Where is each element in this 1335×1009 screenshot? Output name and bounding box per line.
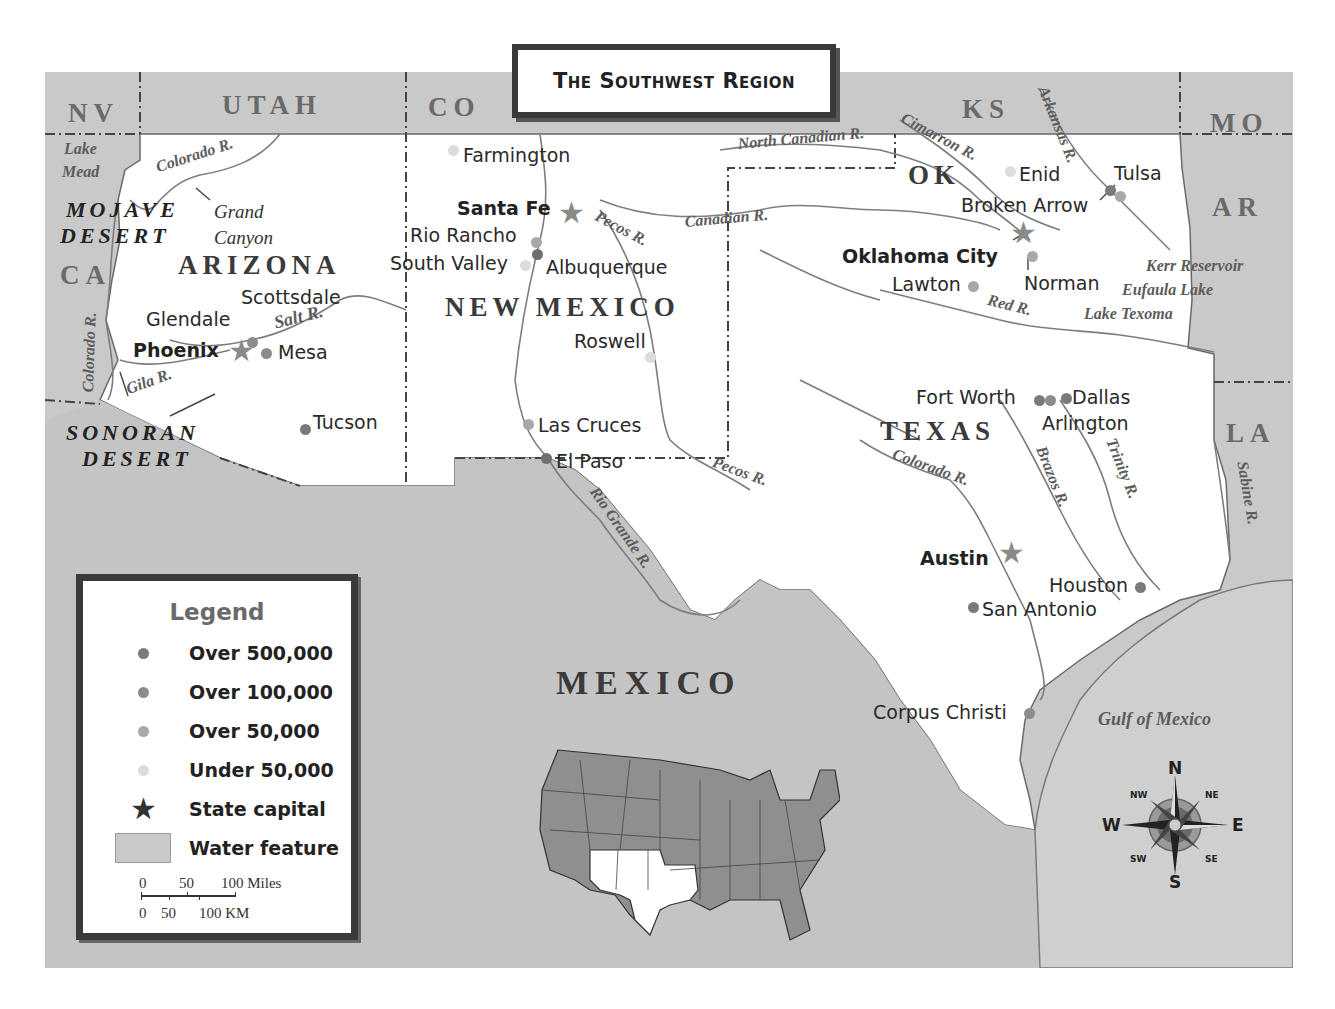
- water-label-north-canadian-river: North Canadian R.: [737, 125, 865, 152]
- capital-star-santa-fe: ★: [558, 198, 585, 228]
- water-label-rio-grande: Rio Grande R.: [587, 484, 655, 571]
- city-dot-south-valley: [520, 260, 531, 271]
- dot-icon: [138, 765, 149, 776]
- legend-item-over-100000: Over 100,000: [113, 677, 333, 707]
- water-label-colorado-river-texas: Colorado R.: [891, 446, 972, 488]
- city-label-scottsdale: Scottsdale: [241, 288, 341, 307]
- capital-star-austin: ★: [998, 538, 1025, 568]
- state-label-texas: TEXAS: [880, 418, 995, 445]
- city-dot-dallas: [1061, 393, 1072, 404]
- water-label-lake-mead-2: Mead: [62, 164, 99, 180]
- city-dot-mesa: [261, 348, 272, 359]
- city-dot-roswell: [645, 352, 656, 363]
- scale-tick: [235, 892, 236, 897]
- state-label-new-mexico: NEW MEXICO: [445, 294, 680, 321]
- city-dot-san-antonio: [968, 602, 979, 613]
- city-label-albuquerque: Albuquerque: [546, 258, 667, 277]
- city-dot-lawton: [968, 281, 979, 292]
- city-dot-norman: [1027, 251, 1038, 262]
- water-label-kerr-reservoir: Kerr Reservoir: [1146, 258, 1243, 274]
- city-dot-rio-rancho: [531, 237, 542, 248]
- legend-item-over-500000: Over 500,000: [113, 638, 333, 668]
- sonoran-desert-line2: DESERT: [82, 448, 192, 470]
- city-label-enid: Enid: [1019, 165, 1060, 184]
- star-icon: ★: [130, 794, 157, 824]
- legend-label: Water feature: [189, 837, 339, 859]
- state-label-nv: NV: [68, 100, 119, 127]
- city-label-santa-fe: Santa Fe: [457, 199, 551, 218]
- legend-label: State capital: [189, 798, 326, 820]
- city-dot-tucson: [300, 424, 311, 435]
- scale-km-100: 100 KM: [199, 905, 249, 922]
- water-swatch-icon: [115, 833, 171, 863]
- city-dot-enid: [1005, 166, 1016, 177]
- legend-label: Over 100,000: [189, 681, 333, 703]
- city-dot-corpus-christi: [1024, 708, 1035, 719]
- dot-icon: [138, 648, 149, 659]
- capital-star-oklahoma-city: ★: [1010, 218, 1037, 248]
- state-label-la: LA: [1226, 420, 1276, 447]
- mojave-desert-line2: DESERT: [60, 225, 170, 247]
- legend-label: Under 50,000: [189, 759, 334, 781]
- water-label-canadian-river: Canadian R.: [684, 207, 769, 230]
- state-label-co: CO: [428, 94, 481, 121]
- scale-tick: [199, 895, 200, 900]
- city-label-lawton: Lawton: [892, 275, 961, 294]
- water-label-gila-river: Gila R.: [124, 366, 174, 397]
- scale-tick: [187, 892, 188, 897]
- city-label-el-paso: El Paso: [556, 452, 623, 471]
- water-label-sabine-river: Sabine R.: [1234, 460, 1261, 526]
- legend-item-over-50000: Over 50,000: [113, 716, 320, 746]
- mojave-desert-line1: MOJAVE: [66, 199, 179, 221]
- city-dot-arlington: [1045, 395, 1056, 406]
- state-label-utah: UTAH: [222, 92, 322, 119]
- scale-tick: [169, 895, 170, 900]
- water-label-colorado-river-west: Colorado R.: [80, 312, 99, 393]
- city-dot-farmington: [448, 145, 459, 156]
- water-label-gulf-of-mexico: Gulf of Mexico: [1098, 710, 1211, 728]
- state-label-ks: KS: [962, 96, 1010, 123]
- city-label-tulsa: Tulsa: [1114, 164, 1162, 183]
- city-label-rio-rancho: Rio Rancho: [410, 226, 517, 245]
- city-label-houston: Houston: [1049, 576, 1128, 595]
- scale-tick: [141, 892, 142, 900]
- map-title-box: The Southwest Region: [512, 44, 836, 118]
- city-label-roswell: Roswell: [574, 332, 646, 351]
- city-label-mesa: Mesa: [278, 343, 328, 362]
- city-label-san-antonio: San Antonio: [982, 600, 1097, 619]
- city-dot-el-paso: [541, 453, 552, 464]
- dot-icon: [138, 726, 149, 737]
- grand-canyon-line1: Grand: [214, 202, 264, 221]
- city-label-fort-worth: Fort Worth: [916, 388, 1016, 407]
- city-label-oklahoma-city: Oklahoma City: [842, 247, 998, 266]
- water-label-lake-mead-1: Lake: [64, 141, 97, 157]
- water-label-pecos-river-north: Pecos R.: [592, 208, 650, 249]
- water-label-brazos-river: Brazos R.: [1033, 444, 1072, 509]
- sonoran-desert-line1: SONORAN: [66, 422, 199, 444]
- water-label-colorado-river-north: Colorado R.: [154, 135, 235, 175]
- scale-km-0: 0: [139, 905, 147, 922]
- city-dot-fort-worth: [1034, 395, 1045, 406]
- water-label-lake-texoma: Lake Texoma: [1084, 306, 1173, 322]
- city-label-las-cruces: Las Cruces: [538, 416, 641, 435]
- water-label-arkansas-river: Arkansas R.: [1035, 84, 1080, 165]
- scale-miles-50: 50: [179, 875, 194, 892]
- city-label-tucson: Tucson: [313, 413, 378, 432]
- legend-item-water-feature: Water feature: [113, 833, 339, 863]
- city-dot-houston: [1135, 582, 1146, 593]
- state-label-mo: MO: [1210, 110, 1269, 137]
- scale-line: [141, 895, 235, 897]
- state-label-ca: CA: [60, 262, 111, 289]
- legend-item-state-capital: ★ State capital: [113, 794, 326, 824]
- capital-star-phoenix: ★: [228, 336, 255, 366]
- city-label-broken-arrow: Broken Arrow: [961, 196, 1088, 215]
- scale-km-50: 50: [161, 905, 176, 922]
- city-label-farmington: Farmington: [463, 146, 570, 165]
- city-dot-las-cruces: [523, 419, 534, 430]
- state-label-arizona: ARIZONA: [178, 252, 341, 279]
- scale-miles-100: 100 Miles: [221, 875, 281, 892]
- city-label-dallas: Dallas: [1072, 388, 1130, 407]
- legend-title: Legend: [83, 599, 351, 625]
- city-label-corpus-christi: Corpus Christi: [873, 703, 1007, 722]
- scale-bar: 0 50 100 Miles 0 50 100 KM: [139, 875, 339, 925]
